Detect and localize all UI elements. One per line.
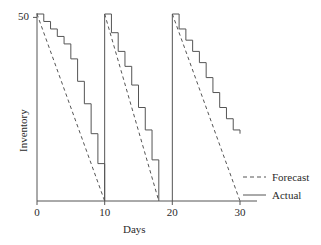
forecast-line-segment <box>37 14 105 201</box>
x-tick-label-0: 0 <box>23 207 51 218</box>
legend-label-forecast: Forecast <box>272 172 309 183</box>
data-series-group <box>37 14 240 201</box>
y-axis-title: Inventory <box>18 109 29 152</box>
x-tick-label-30: 30 <box>226 207 254 218</box>
inventory-sawtooth-chart: Inventory Days 50 0 10 20 30 Forecast Ac… <box>0 0 321 245</box>
x-axis-title: Days <box>123 224 146 235</box>
y-tick-label-50: 50 <box>18 11 29 22</box>
forecast-line-segment <box>105 14 159 201</box>
legend-label-actual: Actual <box>272 190 301 201</box>
x-tick-label-10: 10 <box>91 207 119 218</box>
x-tick-label-20: 20 <box>158 207 186 218</box>
legend-marks <box>243 177 266 195</box>
forecast-line-segment <box>172 14 240 201</box>
actual-step-line-cycle-3 <box>172 14 240 134</box>
